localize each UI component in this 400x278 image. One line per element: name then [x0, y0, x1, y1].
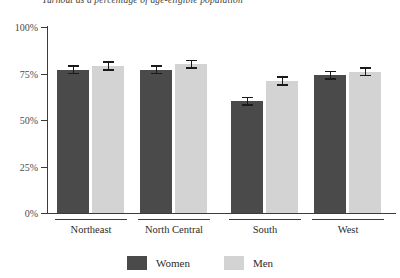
group-label-south: South [229, 224, 301, 235]
error-bar-cap-bottom [242, 104, 253, 106]
legend-swatch-men-icon [224, 256, 244, 270]
chart-title: Turnout as a percentage of age-eligible … [42, 0, 362, 6]
legend-label-women: Women [156, 257, 190, 269]
error-bar-north-central-women [151, 65, 162, 74]
legend-swatch-women-icon [127, 256, 147, 270]
error-bar-north-central-men [186, 60, 197, 69]
error-bar-cap-bottom [103, 69, 114, 71]
y-tick-label-100: 100% [15, 22, 38, 33]
y-tick-label-0: 0% [25, 208, 38, 219]
legend-item-women: Women [127, 256, 190, 270]
bar-north-central-men [175, 64, 207, 213]
error-bar-cap-bottom [360, 75, 371, 77]
y-tick-label-50: 50% [20, 115, 38, 126]
bar-west-men [349, 72, 381, 213]
x-axis-line [47, 213, 396, 214]
bar-north-central-women [140, 70, 172, 213]
error-bar-west-women [325, 71, 336, 80]
group-rule-west [312, 219, 384, 220]
error-bar-west-men [360, 67, 371, 76]
y-tick-label-25: 25% [20, 161, 38, 172]
group-label-west: West [312, 224, 384, 235]
bar-south-women [231, 101, 263, 213]
group-rule-south [229, 219, 301, 220]
error-bar-cap-bottom [68, 73, 79, 75]
error-bar-cap-bottom [325, 78, 336, 80]
error-bar-south-women [242, 97, 253, 106]
bar-south-men [266, 81, 298, 213]
y-tick-label-75: 75% [20, 68, 38, 79]
error-bar-cap-bottom [186, 67, 197, 69]
y-tick-mark-0 [41, 213, 47, 214]
group-label-north-central: North Central [138, 224, 210, 235]
error-bar-cap-bottom [277, 84, 288, 86]
error-bar-northeast-men [103, 61, 114, 70]
error-bar-south-men [277, 76, 288, 85]
chart-legend: Women Men [0, 256, 400, 270]
bar-northeast-men [92, 66, 124, 213]
plot-area [47, 27, 395, 213]
group-rule-northeast [55, 219, 127, 220]
error-bar-northeast-women [68, 65, 79, 74]
group-rule-north-central [138, 219, 210, 220]
error-bar-cap-bottom [151, 73, 162, 75]
bar-northeast-women [57, 70, 89, 213]
group-label-northeast: Northeast [55, 224, 127, 235]
legend-item-men: Men [224, 256, 273, 270]
legend-label-men: Men [253, 257, 273, 269]
bar-west-women [314, 75, 346, 213]
grouped-bar-chart: Turnout as a percentage of age-eligible … [0, 0, 400, 278]
